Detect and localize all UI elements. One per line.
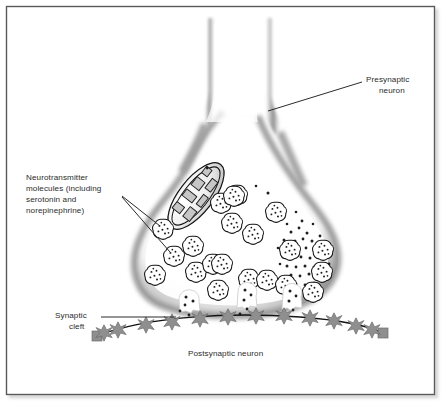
label-synaptic-cleft-line1: Synaptic: [55, 311, 87, 320]
label-neurotransmitter-line4: norepinephrine): [26, 206, 84, 215]
synaptic-vesicle: [257, 270, 278, 290]
synaptic-vesicle: [313, 240, 334, 260]
synapse-diagram-canvas: Presynaptic neuron Neurotransmitter mole…: [0, 0, 446, 412]
synaptic-vesicle: [243, 224, 264, 244]
synaptic-vesicle: [212, 254, 233, 274]
synaptic-vesicle: [164, 246, 185, 266]
synaptic-vesicle: [183, 236, 204, 256]
label-presynaptic-line1: Presynaptic: [366, 75, 409, 84]
synaptic-vesicle: [280, 240, 301, 260]
label-synaptic-cleft-line2: cleft: [69, 322, 85, 331]
synaptic-vesicle: [312, 262, 333, 282]
axon-interior: [206, 24, 266, 122]
synaptic-vesicle: [208, 280, 229, 300]
synaptic-vesicle: [303, 282, 324, 302]
label-presynaptic-line2: neuron: [379, 86, 405, 95]
synaptic-vesicle: [224, 186, 245, 206]
label-neurotransmitter-line3: serotonin and: [26, 195, 76, 204]
label-postsynaptic-neuron: Postsynaptic neuron: [188, 349, 263, 358]
synapse-figure: Presynaptic neuron Neurotransmitter mole…: [0, 0, 446, 412]
synaptic-vesicle: [145, 265, 166, 285]
membrane-end-cap-right: [378, 328, 388, 338]
synaptic-vesicle: [222, 213, 243, 233]
label-neurotransmitter-line2: molecules (including: [26, 184, 101, 193]
label-neurotransmitter-line1: Neurotransmitter: [26, 173, 88, 182]
label-postsynaptic-line1: Postsynaptic neuron: [188, 349, 263, 358]
synaptic-vesicle: [266, 202, 287, 222]
